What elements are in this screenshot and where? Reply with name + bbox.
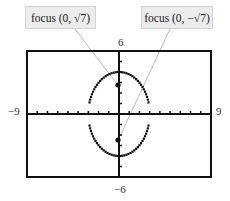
leader-line-top xyxy=(75,29,117,84)
focus-bottom-point xyxy=(115,137,120,142)
leader-line-bottom xyxy=(120,29,170,136)
axes xyxy=(27,51,211,177)
focus-top-point xyxy=(115,82,120,87)
graph-plot xyxy=(0,0,230,201)
